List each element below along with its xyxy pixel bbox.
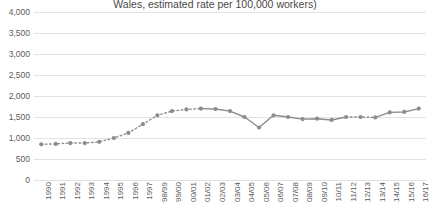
x-axis-tick-label: 06/07 <box>277 182 285 202</box>
gridline <box>34 138 426 139</box>
y-axis-tick-label: 3,000 <box>0 50 30 59</box>
x-axis-tick-label: 1996 <box>132 182 140 200</box>
gridline <box>34 54 426 55</box>
chart-title: Wales, estimated rate per 100,000 worker… <box>0 0 430 10</box>
y-axis-tick-label: 4,000 <box>0 8 30 17</box>
x-axis-tick-label: 10/11 <box>335 182 343 201</box>
x-axis-tick-label: 03/04 <box>234 182 242 202</box>
y-axis-tick-label: 0 <box>0 176 30 185</box>
y-axis-tick-label: 500 <box>0 155 30 164</box>
x-axis-tick-label: 00/01 <box>190 182 198 202</box>
plot-area <box>34 12 426 180</box>
x-axis-tick-label: 07/08 <box>292 182 300 202</box>
x-axis-tick-label: 09/10 <box>321 182 329 202</box>
x-axis-tick-label: 1995 <box>117 182 125 200</box>
x-axis-tick-label: 98/99 <box>161 182 169 202</box>
x-axis-tick-label: 1992 <box>74 182 82 200</box>
x-axis-tick-label: 05/06 <box>263 182 271 202</box>
x-axis-tick-label: 01/02 <box>204 182 212 202</box>
x-axis-tick-label: 08/09 <box>306 182 314 202</box>
y-axis-tick-label: 2,000 <box>0 92 30 101</box>
y-axis: 4,0003,5003,0002,5002,0001,5001,0005000 <box>0 12 30 180</box>
chart-container: Wales, estimated rate per 100,000 worker… <box>0 0 430 222</box>
x-axis-tick-label: 1993 <box>88 182 96 200</box>
x-axis-tick-label: 16/17 <box>422 182 430 202</box>
x-axis-tick-label: 99/00 <box>175 182 183 202</box>
gridline <box>34 12 426 13</box>
y-axis-tick-label: 1,500 <box>0 113 30 122</box>
x-axis-tick-label: 1991 <box>59 182 67 200</box>
x-axis-tick-label: 1997 <box>146 182 154 200</box>
y-axis-tick-label: 2,500 <box>0 71 30 80</box>
y-axis-tick-label: 1,000 <box>0 134 30 143</box>
x-axis-tick-label: 1994 <box>103 182 111 200</box>
x-axis-tick-label: 13/14 <box>379 182 387 202</box>
gridline <box>34 33 426 34</box>
x-axis-tick-label: 14/15 <box>393 182 401 202</box>
x-axis-tick-label: 11/12 <box>350 182 358 201</box>
gridline <box>34 159 426 160</box>
x-axis: 1990199119921993199419951996199798/9999/… <box>34 182 426 222</box>
x-axis-tick-label: 02/03 <box>219 182 227 202</box>
x-axis-tick-label: 04/05 <box>248 182 256 202</box>
gridline <box>34 75 426 76</box>
gridline <box>34 96 426 97</box>
x-axis-tick-label: 1990 <box>45 182 53 200</box>
gridline <box>34 117 426 118</box>
x-axis-tick-label: 15/16 <box>408 182 416 202</box>
x-axis-tick-label: 12/13 <box>364 182 372 202</box>
y-axis-tick-label: 3,500 <box>0 29 30 38</box>
